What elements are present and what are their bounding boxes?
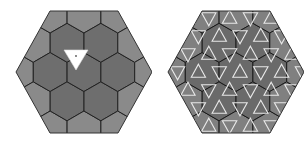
hex-tile (287, 111, 304, 143)
overlay-triangle (152, 64, 164, 77)
hex-tile (0, 82, 17, 121)
hex-tiles (0, 0, 152, 143)
hex-tile (84, 0, 118, 4)
hex-tile (84, 140, 118, 143)
hex-tile (135, 0, 152, 33)
hex-tile (270, 140, 304, 143)
hex-tile (118, 140, 152, 143)
overlay-triangle (212, 0, 226, 8)
overlay-triangle (285, 13, 299, 26)
overlay-triangle (295, 0, 304, 8)
overlay-triangle (152, 49, 154, 62)
overlay-triangle (160, 13, 174, 26)
overlay-triangle (181, 121, 195, 134)
hex-tile (152, 82, 169, 121)
hex-tile (0, 0, 33, 33)
overlay-triangle (295, 139, 304, 143)
hex-tile (0, 23, 17, 62)
overlay-triangle (170, 28, 184, 41)
overlay-triangle (212, 139, 226, 143)
overlay-triangle (274, 136, 288, 143)
hex-tile (152, 23, 169, 62)
overlay-triangle (152, 136, 164, 143)
right-woven-tiling (152, 0, 304, 143)
hex-tiles (152, 0, 304, 143)
overlay-triangle (254, 139, 268, 143)
hex-tile (17, 0, 51, 4)
overlay-triangle (152, 31, 164, 44)
hex-tile (0, 111, 33, 143)
overlay-triangle (274, 0, 288, 5)
overlay-triangle (170, 139, 184, 143)
hex-tile (202, 0, 236, 4)
overlay-triangle (285, 118, 299, 131)
triangle-center-dot (75, 55, 77, 57)
hex-tile (118, 0, 152, 4)
left-hex-tiling-panel (0, 0, 152, 143)
hex-tile (0, 0, 17, 4)
overlay-triangle (160, 118, 174, 131)
left-hex-tiling (0, 0, 152, 143)
overlay-triangle (233, 136, 247, 143)
hex-tile (135, 111, 152, 143)
hex-tile (270, 0, 304, 4)
hex-tile (169, 140, 203, 143)
overlay-triangle (152, 0, 164, 5)
hex-tile (169, 0, 203, 4)
overlay-triangle (295, 100, 304, 113)
overlay-triangle (254, 0, 268, 8)
overlay-triangle (152, 82, 154, 95)
overlay-triangle (191, 136, 205, 143)
overlay-triangle (233, 0, 247, 5)
hex-tile (304, 82, 305, 121)
hex-tile (152, 0, 169, 4)
hex-tile (17, 140, 51, 143)
overlay-triangle (181, 10, 195, 23)
hex-tile (50, 0, 84, 4)
right-woven-tiling-panel (152, 0, 304, 143)
hex-tile (287, 0, 304, 33)
hex-tile (202, 140, 236, 143)
overlay-triangle (295, 28, 304, 41)
hex-tile (50, 140, 84, 143)
overlay-triangle (160, 85, 174, 98)
hex-tile (304, 140, 305, 143)
hex-tile (152, 0, 185, 33)
overlay-triangle (152, 103, 164, 116)
overlay-triangle (160, 46, 174, 59)
overlay-triangle (170, 0, 184, 8)
overlay-triangle (170, 100, 184, 113)
overlay-triangle (152, 10, 154, 23)
hex-tile (304, 23, 305, 62)
hex-tile (152, 111, 185, 143)
hex-tile (236, 0, 270, 4)
overlay-triangle (152, 121, 154, 134)
overlay-triangle (191, 0, 205, 5)
hex-tile (236, 140, 270, 143)
